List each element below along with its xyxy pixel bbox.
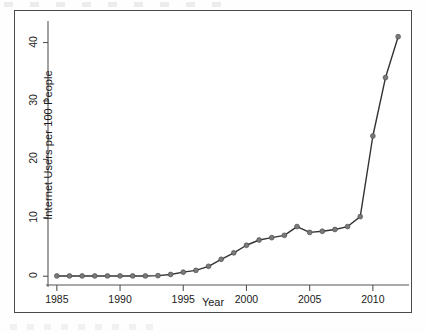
x-tick-label: 2010 (357, 293, 389, 305)
y-tick-label: 40 (27, 33, 39, 51)
scan-artifact-bottom (10, 324, 160, 330)
data-point (244, 243, 249, 248)
data-point (307, 230, 312, 235)
scan-artifact-top (4, 2, 234, 7)
chart-series (54, 34, 400, 278)
data-point (67, 274, 72, 279)
y-tick-label: 0 (27, 266, 39, 284)
data-point (118, 274, 123, 279)
y-axis-title: Internet Users per 100 People (42, 50, 54, 240)
data-point (143, 274, 148, 279)
data-point (282, 233, 287, 238)
data-point (92, 274, 97, 279)
data-point (168, 272, 173, 277)
chart-axes (43, 21, 409, 291)
screenshot-root: Internet Users per 100 People Year 01020… (0, 0, 426, 333)
x-axis-title: Year (15, 296, 411, 308)
data-point (219, 257, 224, 262)
data-point (181, 270, 186, 275)
data-point (370, 134, 375, 139)
data-point (269, 235, 274, 240)
data-point (156, 273, 161, 278)
data-point (333, 227, 338, 232)
y-tick-label: 10 (27, 208, 39, 226)
y-tick-label: 20 (27, 149, 39, 167)
x-tick-label: 1985 (41, 293, 73, 305)
x-tick-label: 2000 (230, 293, 262, 305)
data-point (358, 214, 363, 219)
chart-figure: Internet Users per 100 People Year 01020… (14, 10, 412, 313)
data-point (396, 34, 401, 39)
data-point (54, 274, 59, 279)
data-point (194, 268, 199, 273)
data-point (257, 238, 262, 243)
data-point (206, 264, 211, 269)
x-tick-label: 1995 (167, 293, 199, 305)
data-point (345, 224, 350, 229)
data-point (130, 274, 135, 279)
x-tick-label: 2005 (294, 293, 326, 305)
line-chart-plot (15, 11, 411, 312)
y-tick-label: 30 (27, 91, 39, 109)
data-point (80, 274, 85, 279)
data-point (295, 224, 300, 229)
data-point (231, 250, 236, 255)
data-point (320, 229, 325, 234)
x-tick-label: 1990 (104, 293, 136, 305)
data-point (383, 75, 388, 80)
data-point (105, 274, 110, 279)
